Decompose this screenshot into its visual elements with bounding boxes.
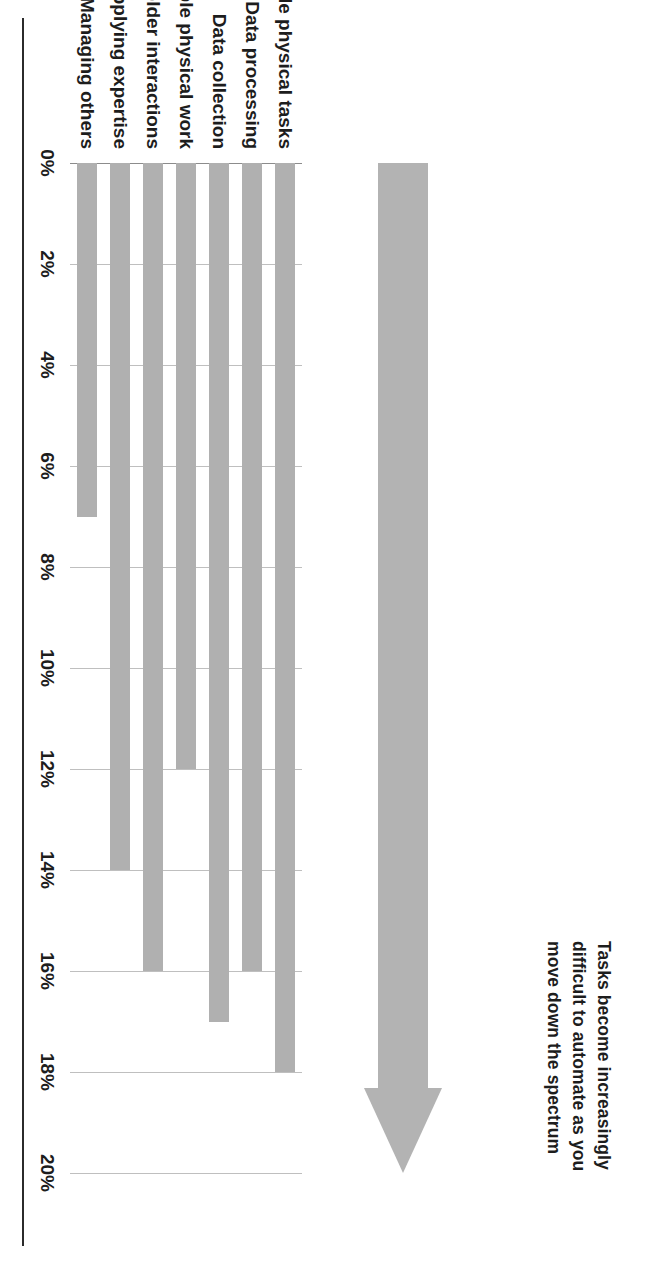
axis-tick-label: 2% <box>36 250 58 277</box>
bar-applying-expertise <box>109 163 129 870</box>
bar-unpredictable-physical-work <box>176 163 196 769</box>
category-label: Unpredictable physical work <box>175 0 197 149</box>
spectrum-arrow-icon <box>364 163 442 1173</box>
arrow-shaft <box>378 163 428 1093</box>
bar-predictable-physical-tasks <box>275 163 295 1072</box>
bar-data-collection <box>209 163 229 1022</box>
category-label: Data collection <box>208 14 230 149</box>
axis-tick-label: 10% <box>36 649 58 687</box>
category-label: Data processing <box>241 1 263 149</box>
gridline-18% <box>70 1072 302 1073</box>
axis-tick-label: 0% <box>36 149 58 176</box>
category-label: Predictable physical tasks <box>274 0 296 149</box>
axis-tick-label: 16% <box>36 952 58 990</box>
category-label: Managing others <box>75 0 97 149</box>
bar-chart-plot-area: 0%2%4%6%8%10%12%14%16%18%20%Predictable … <box>70 163 302 1173</box>
gridline-14% <box>70 870 302 871</box>
axis-tick-label: 20% <box>36 1154 58 1192</box>
axis-tick-label: 8% <box>36 553 58 580</box>
axis-tick-label: 12% <box>36 750 58 788</box>
spectrum-annotation-text: Tasks become increasingly difficult to a… <box>541 941 616 1191</box>
category-label: Stakeholder interactions <box>141 0 163 149</box>
bar-data-processing <box>242 163 262 971</box>
axis-tick-label: 18% <box>36 1053 58 1091</box>
axis-tick-label: 6% <box>36 452 58 479</box>
gridline-12% <box>70 769 302 770</box>
axis-tick-label: 14% <box>36 851 58 889</box>
axis-tick-label: 4% <box>36 351 58 378</box>
figure-page: Tasks become increasingly difficult to a… <box>0 0 647 1262</box>
rotated-figure-stage: Tasks become increasingly difficult to a… <box>24 41 624 1221</box>
arrow-head <box>364 1088 442 1173</box>
bar-managing-others <box>76 163 96 517</box>
gridline-20% <box>70 1173 302 1174</box>
bar-stakeholder-interactions <box>142 163 162 971</box>
category-label: Applying expertise <box>108 0 130 149</box>
gridline-16% <box>70 971 302 972</box>
